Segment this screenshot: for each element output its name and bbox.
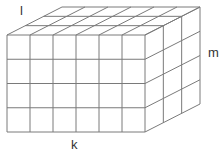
label-depth-l: l — [20, 4, 23, 17]
label-length-k: k — [71, 138, 78, 151]
label-height-m: m — [208, 46, 219, 59]
cuboid-diagram — [0, 0, 224, 151]
cube-grid-lines — [7, 7, 200, 132]
